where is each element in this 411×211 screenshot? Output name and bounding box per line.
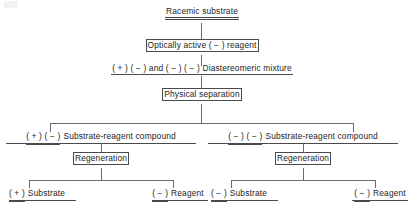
node-compound-right-label: Substrate-reagent compound <box>265 131 377 141</box>
edge-regeneration-left-to-reagent <box>173 180 174 188</box>
node-diastereomeric-mixture: ( + ) ( − ) and ( − ) ( − ) Diastereomer… <box>0 63 404 75</box>
edge-regeneration-left-stem <box>101 168 102 180</box>
node-regeneration-right: Regeneration <box>202 152 404 165</box>
node-product-reagent-right-label: Reagent <box>373 188 406 198</box>
node-product-substrate-right-label: Substrate <box>230 188 267 198</box>
node-regeneration-right-label: Regeneration <box>275 152 331 165</box>
node-diastereomeric-mixture-label: ( + ) ( − ) and ( − ) ( − ) Diastereomer… <box>111 63 293 75</box>
node-regeneration-left: Regeneration <box>0 152 202 165</box>
node-product-reagent-left-label: Reagent <box>171 188 204 198</box>
node-product-substrate-left-label: Substrate <box>28 188 65 198</box>
edge-regeneration-right-to-reagent <box>375 180 376 188</box>
underline-product-reagent-left <box>152 200 208 201</box>
edge-separation-bus <box>50 123 354 124</box>
node-physical-separation-label: Physical separation <box>162 88 241 101</box>
edge-regeneration-left-bus <box>29 180 174 181</box>
node-physical-separation: Physical separation <box>0 88 404 101</box>
node-regeneration-left-label: Regeneration <box>73 152 129 165</box>
underline-product-substrate-left <box>9 200 76 201</box>
edge-regeneration-right-stem <box>303 168 304 180</box>
edge-regeneration-right-to-substrate <box>231 180 232 188</box>
node-reagent: Optically active ( − ) reagent <box>0 39 404 52</box>
underline-product-substrate-right <box>211 200 278 201</box>
edge-regeneration-right-bus <box>231 180 376 181</box>
edge-regeneration-left-to-substrate <box>29 180 30 188</box>
underline-product-reagent-right <box>352 200 408 201</box>
edge-racemic-to-reagent <box>201 23 202 40</box>
node-racemic-substrate: Racemic substrate <box>0 6 404 18</box>
node-compound-left-label: Substrate-reagent compound <box>63 131 175 141</box>
edge-separation-stem <box>201 104 202 123</box>
node-racemic-substrate-label: Racemic substrate <box>165 6 239 18</box>
node-reagent-label: Optically active ( − ) reagent <box>146 39 259 52</box>
